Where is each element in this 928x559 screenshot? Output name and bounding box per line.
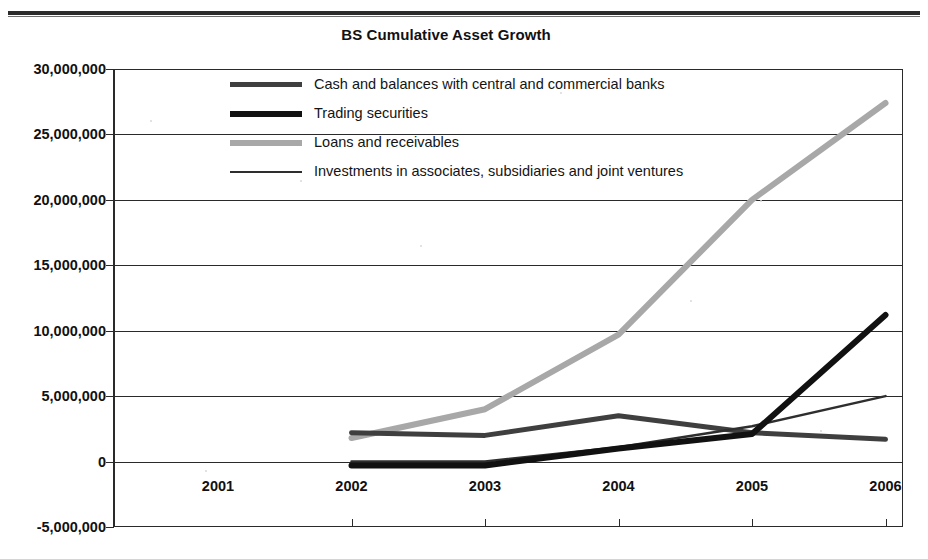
legend-label: Trading securities xyxy=(314,106,428,121)
chart-legend: Cash and balances with central and comme… xyxy=(230,70,710,186)
y-axis-tick-label: 25,000,000 xyxy=(33,126,106,142)
legend-item[interactable]: Investments in associates, subsidiaries … xyxy=(230,157,710,186)
page-top-rule-thin xyxy=(8,16,920,17)
y-axis-tick-label: 20,000,000 xyxy=(33,192,106,208)
scan-speckle xyxy=(150,120,152,122)
y-axis-tick-label: 15,000,000 xyxy=(33,257,106,273)
legend-label: Loans and receivables xyxy=(314,135,459,150)
legend-swatch xyxy=(230,82,302,87)
legend-item[interactable]: Trading securities xyxy=(230,99,710,128)
scan-speckle xyxy=(420,245,422,247)
scan-speckle xyxy=(690,300,692,302)
y-axis-tick-label: 5,000,000 xyxy=(41,388,106,404)
legend-swatch xyxy=(230,111,302,117)
scan-speckle xyxy=(300,180,302,182)
legend-label: Investments in associates, subsidiaries … xyxy=(314,164,683,179)
chart-title-text: BS Cumulative Asset Growth xyxy=(341,26,551,43)
y-axis-tick xyxy=(106,527,114,528)
scan-speckle xyxy=(820,430,822,432)
y-axis-tick-label: 30,000,000 xyxy=(33,61,106,77)
y-axis-labels: 30,000,00025,000,00020,000,00015,000,000… xyxy=(0,69,106,527)
y-axis-tick-label: -5,000,000 xyxy=(37,519,106,535)
legend-swatch xyxy=(230,140,302,146)
y-axis-tick-label: 0 xyxy=(98,454,106,470)
chart-page: BS Cumulative Asset Growth 30,000,00025,… xyxy=(0,0,928,559)
y-axis-tick-label: 10,000,000 xyxy=(33,323,106,339)
legend-swatch xyxy=(230,171,302,173)
scan-speckle xyxy=(205,470,207,472)
legend-item[interactable]: Loans and receivables xyxy=(230,128,710,157)
page-top-rule xyxy=(8,11,920,15)
legend-item[interactable]: Cash and balances with central and comme… xyxy=(230,70,710,99)
scan-speckle xyxy=(560,92,562,94)
chart-title: BS Cumulative Asset Growth xyxy=(0,26,928,43)
series-line xyxy=(352,396,886,461)
scan-speckle xyxy=(760,200,762,202)
legend-label: Cash and balances with central and comme… xyxy=(314,77,665,92)
